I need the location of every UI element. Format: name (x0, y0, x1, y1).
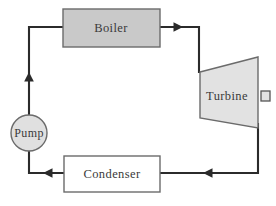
turbine-label: Turbine (206, 89, 248, 103)
rankine-cycle-diagram: Boiler Turbine Condenser Pump (0, 0, 276, 206)
diagram-canvas: Boiler Turbine Condenser Pump (0, 0, 276, 206)
pump-label: Pump (14, 126, 44, 140)
boiler-label: Boiler (94, 21, 128, 35)
flow-arrow-up-pump-to-boiler (24, 72, 34, 82)
pipe-condenser-to-pump (29, 151, 64, 173)
component-condenser[interactable]: Condenser (64, 156, 160, 192)
component-boiler[interactable]: Boiler (63, 9, 160, 47)
flow-arrow-left-turbine-to-condenser (203, 168, 213, 178)
pipe-boiler-to-turbine (160, 27, 199, 73)
component-pump[interactable]: Pump (11, 115, 47, 151)
component-turbine[interactable]: Turbine (200, 57, 270, 128)
flow-arrow-left-condenser-to-pump (43, 168, 53, 178)
flow-arrow-right-boiler-to-turbine (174, 22, 184, 32)
condenser-label: Condenser (83, 167, 140, 181)
turbine-shaft-stub (261, 91, 270, 101)
pipe-pump-to-boiler (29, 27, 63, 115)
pipe-turbine-to-condenser (160, 123, 258, 173)
